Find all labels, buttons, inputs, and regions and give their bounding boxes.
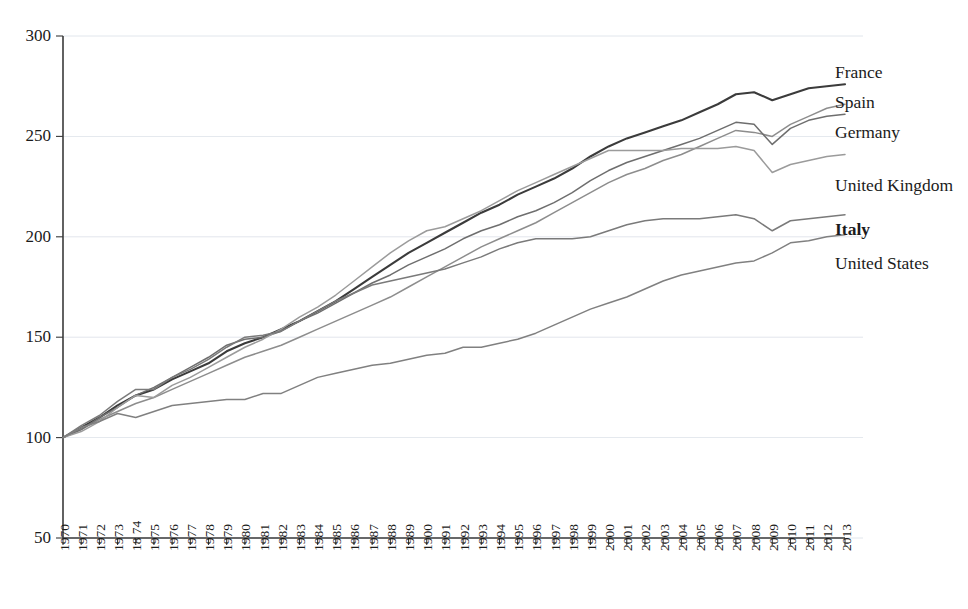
x-tick-label: 1978 — [202, 524, 217, 551]
x-tick-label: 1984 — [311, 524, 326, 551]
x-tick-label: 1988 — [384, 524, 399, 551]
x-tick-label: 2006 — [711, 524, 726, 551]
x-tick-label: 2011 — [802, 525, 817, 552]
series-labels: FranceSpainGermanyUnited KingdomItalyUni… — [835, 62, 954, 273]
series-label-germany: Germany — [835, 122, 900, 142]
series-label-united-kingdom: United Kingdom — [835, 175, 954, 195]
x-tick-label: 2004 — [675, 524, 690, 551]
x-tick-label: 2013 — [839, 524, 854, 551]
line-chart: 50100150200250300 197019711972197318 741… — [0, 0, 968, 609]
x-tick-label: 1979 — [220, 524, 235, 551]
x-tick-label: 1992 — [457, 524, 472, 551]
series-label-united-states: United States — [835, 253, 929, 273]
y-tick-label: 300 — [26, 26, 52, 45]
x-tick-label: 1976 — [166, 524, 181, 551]
x-tick-label: 1982 — [275, 524, 290, 551]
x-tick-label: 2000 — [602, 524, 617, 551]
x-tick-label: 2003 — [657, 524, 672, 551]
x-tick-label: 1977 — [184, 524, 199, 551]
x-tick-label: 18 74 — [129, 520, 144, 551]
x-tick-label: 1970 — [57, 524, 72, 551]
x-tick-label: 1987 — [366, 524, 381, 551]
x-tick-label: 1981 — [257, 524, 272, 551]
x-tick-label: 2009 — [766, 524, 781, 551]
x-tick-label: 1999 — [584, 524, 599, 551]
x-tick-label: 1985 — [329, 524, 344, 551]
x-tick-label: 1983 — [293, 524, 308, 551]
series-line-germany — [63, 114, 845, 437]
x-tick-label: 1996 — [529, 524, 544, 551]
x-tick-labels: 197019711972197318 741975197619771978197… — [57, 520, 854, 551]
axis-lines — [63, 36, 845, 538]
x-tick-label: 1900 — [420, 524, 435, 551]
x-tick-label: 1986 — [347, 524, 362, 551]
x-tick-label: 1972 — [93, 524, 108, 551]
series-label-france: France — [835, 62, 883, 82]
series-line-spain — [63, 104, 845, 437]
x-tick-label: 1998 — [566, 524, 581, 551]
y-tick-label: 150 — [26, 327, 52, 346]
series-label-spain: Spain — [835, 92, 875, 112]
data-series — [63, 84, 845, 437]
y-tick-labels: 50100150200250300 — [26, 26, 52, 547]
series-line-united-kingdom — [63, 146, 845, 437]
y-tick-label: 50 — [34, 528, 51, 547]
x-tick-label: 1971 — [75, 524, 90, 551]
x-tick-label: 2008 — [748, 524, 763, 551]
x-tick-label: 2005 — [693, 524, 708, 551]
x-tick-label: 2001 — [620, 524, 635, 551]
x-tick-label: 1997 — [548, 524, 563, 551]
x-tick-label: 2002 — [638, 524, 653, 551]
y-tick-label: 250 — [26, 126, 52, 145]
series-label-italy: Italy — [835, 219, 870, 239]
x-tick-label: 1994 — [493, 524, 508, 551]
x-tick-label: 1980 — [238, 524, 253, 551]
y-tick-label: 200 — [26, 227, 52, 246]
y-tick-label: 100 — [26, 428, 52, 447]
x-tick-label: 1993 — [475, 524, 490, 551]
y-tick-marks — [56, 36, 63, 538]
chart-canvas: 50100150200250300 197019711972197318 741… — [0, 0, 968, 609]
x-tick-label: 1989 — [402, 524, 417, 551]
x-tick-label: 1991 — [438, 524, 453, 551]
series-line-france — [63, 84, 845, 437]
x-tick-label: 2010 — [784, 524, 799, 551]
x-tick-label: 1975 — [147, 524, 162, 551]
x-tick-label: 2007 — [729, 524, 744, 551]
x-tick-label: 1973 — [111, 524, 126, 551]
gridlines — [63, 36, 863, 538]
x-tick-label: 2012 — [820, 524, 835, 551]
x-tick-label: 1995 — [511, 524, 526, 551]
